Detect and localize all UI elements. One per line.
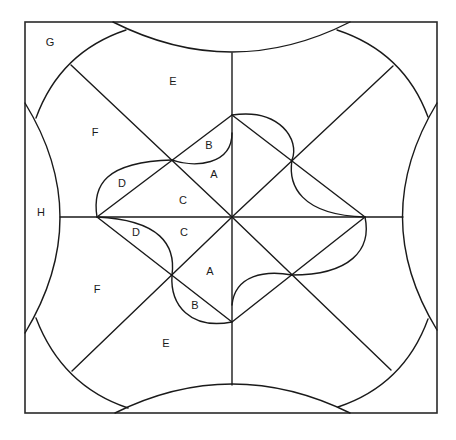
label-a-top: A (210, 169, 217, 180)
corner-arc-bottom-left (36, 318, 128, 408)
diagonal-bottom-right (232, 217, 391, 370)
label-e-bottom: E (162, 338, 169, 349)
corner-arc-top-right (337, 30, 428, 117)
quilt-pattern-diagram: G E F B A D C H D C A F B E (0, 0, 456, 440)
label-f-top: F (92, 127, 99, 138)
label-h: H (37, 207, 45, 218)
label-e-top: E (169, 76, 176, 87)
label-a-bottom: A (206, 266, 213, 277)
left-edge-arc (25, 103, 60, 333)
label-c-bottom: C (180, 227, 188, 238)
petal-top-right-upper (232, 114, 294, 160)
label-c-top: C (179, 195, 187, 206)
label-b-top: B (205, 140, 212, 151)
pattern-drawing (0, 0, 456, 440)
label-d-bottom: D (132, 227, 140, 238)
right-edge-arc (403, 103, 438, 330)
label-b-bottom: B (191, 300, 198, 311)
petal-bottom-right-lower (232, 273, 292, 305)
top-edge-arc (113, 22, 350, 52)
label-f-bottom: F (94, 284, 101, 295)
bottom-edge-arc (115, 384, 350, 413)
diagonal-top-right (232, 66, 393, 217)
label-d-top: D (118, 178, 126, 189)
label-g: G (46, 37, 55, 48)
